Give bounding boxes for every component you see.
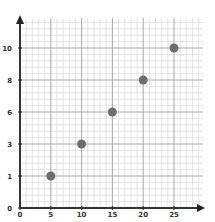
y-tick-label: 8 xyxy=(7,77,12,85)
data-point xyxy=(108,108,117,117)
x-tick-label: 5 xyxy=(48,211,53,219)
data-point xyxy=(77,140,86,149)
x-tick-label: 10 xyxy=(77,211,87,219)
data-point xyxy=(139,76,148,85)
data-point xyxy=(170,44,179,53)
y-axis-arrow-icon xyxy=(16,15,24,24)
scatter-chart: 0510152025 0136810 xyxy=(0,0,215,222)
y-tick-label: 10 xyxy=(2,45,12,53)
x-axis-arrow-icon xyxy=(197,204,205,212)
x-tick-label: 20 xyxy=(138,211,148,219)
x-tick-label: 0 xyxy=(18,211,23,219)
x-tick-label: 25 xyxy=(169,211,179,219)
y-tick-label: 0 xyxy=(7,205,12,213)
x-tick-label: 15 xyxy=(108,211,118,219)
data-point xyxy=(46,172,55,181)
y-tick-label: 6 xyxy=(7,109,12,117)
y-tick-label: 1 xyxy=(7,173,12,181)
y-tick-label: 3 xyxy=(7,141,12,149)
